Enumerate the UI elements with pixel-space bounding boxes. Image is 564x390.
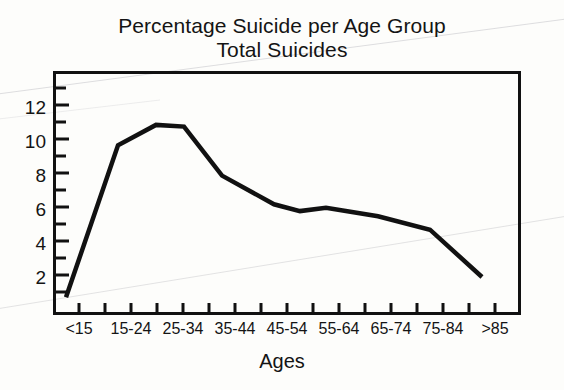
chart-figure: Percentage Suicide per Age Group Total S… bbox=[0, 0, 564, 390]
y-axis-ticks bbox=[54, 88, 69, 292]
x-axis-ticks bbox=[79, 303, 495, 313]
data-series-line bbox=[66, 125, 482, 297]
chart-plot bbox=[0, 0, 564, 390]
